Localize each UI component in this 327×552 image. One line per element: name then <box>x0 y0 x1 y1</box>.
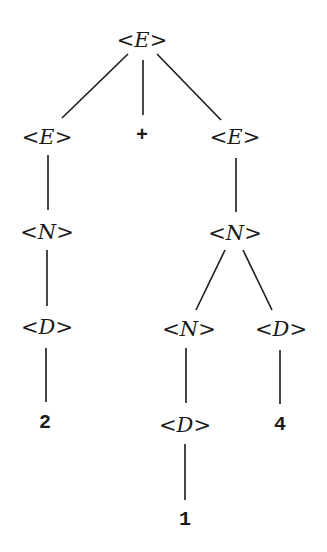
symbol-label: D <box>39 315 56 339</box>
symbol-label: D <box>177 413 194 437</box>
close-bracket: > <box>243 125 261 149</box>
symbol-label: E <box>39 125 54 149</box>
symbol-label: N <box>226 221 244 245</box>
close-bracket: > <box>55 125 73 149</box>
edge-E0-E1 <box>62 54 128 118</box>
nonterminal-node-N1: <N> <box>20 222 74 243</box>
nonterminal-node-N2: <N> <box>208 223 262 244</box>
nonterminal-node-D3: <D> <box>255 319 307 340</box>
nonterminal-node-E1: <E> <box>22 127 73 148</box>
terminal-node-plus: + <box>136 126 148 146</box>
edge-N2-N3 <box>196 250 225 310</box>
close-bracket: > <box>244 221 262 245</box>
nonterminal-node-E2: <E> <box>210 127 261 148</box>
nonterminal-node-E0: <E> <box>117 30 168 51</box>
parse-tree-diagram: <E><E>+<E><N><N><D><N><D>2<D>41 <box>0 0 327 552</box>
nonterminal-node-D1: <D> <box>21 317 73 338</box>
open-bracket: < <box>159 413 177 437</box>
open-bracket: < <box>22 125 40 149</box>
tree-edges <box>0 0 327 552</box>
nonterminal-node-D2: <D> <box>159 415 211 436</box>
open-bracket: < <box>162 317 180 341</box>
terminal-node-t4: 4 <box>274 415 286 435</box>
close-bracket: > <box>289 317 307 341</box>
symbol-label: E <box>134 28 149 52</box>
close-bracket: > <box>55 315 73 339</box>
symbol-label: N <box>180 317 198 341</box>
nonterminal-node-N3: <N> <box>162 319 216 340</box>
open-bracket: < <box>20 220 38 244</box>
open-bracket: < <box>21 315 39 339</box>
symbol-label: D <box>273 317 290 341</box>
open-bracket: < <box>117 28 135 52</box>
symbol-label: E <box>227 125 242 149</box>
open-bracket: < <box>210 125 228 149</box>
close-bracket: > <box>198 317 216 341</box>
open-bracket: < <box>255 317 273 341</box>
close-bracket: > <box>193 413 211 437</box>
symbol-label: N <box>38 220 56 244</box>
close-bracket: > <box>150 28 168 52</box>
edge-N2-D3 <box>243 250 272 310</box>
edge-E0-E2 <box>157 54 221 120</box>
terminal-node-t1: 1 <box>179 510 191 530</box>
close-bracket: > <box>56 220 74 244</box>
terminal-node-t2: 2 <box>39 413 51 433</box>
open-bracket: < <box>208 221 226 245</box>
